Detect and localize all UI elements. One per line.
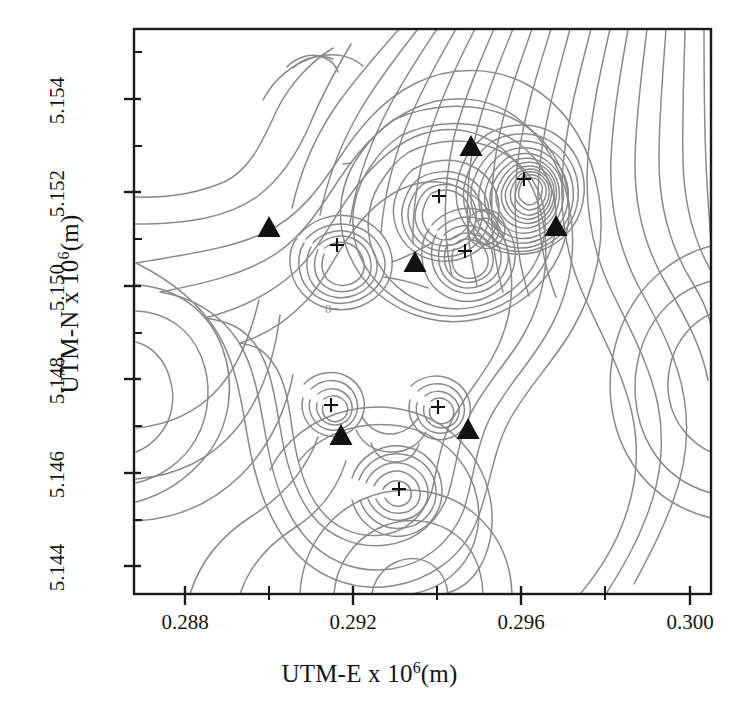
contour-value-label: 0 <box>325 301 332 317</box>
x-axis-title-prefix: UTM-E x 10 <box>281 660 412 687</box>
y-axis-title-suffix: (m) <box>56 215 83 252</box>
x-axis-title-suffix: (m) <box>421 660 458 687</box>
x-tick-label: 0.288 <box>130 610 240 635</box>
x-axis-title: UTM-E x 106(m) <box>0 660 739 688</box>
x-tick-label: 0.292 <box>298 610 408 635</box>
contour-figure: 0 0.288 0.292 0.296 0.300 5.154 5.152 5.… <box>0 0 739 721</box>
x-tick-label: 0.296 <box>466 610 576 635</box>
x-tick-label: 0.300 <box>635 610 739 635</box>
y-axis-title-exponent: 6 <box>55 251 72 259</box>
y-axis-title: UTM-N x 106(m) <box>56 94 84 514</box>
x-axis-title-exponent: 6 <box>413 659 421 676</box>
y-tick-label: 5.144 <box>45 508 70 628</box>
y-axis-title-prefix: UTM-N x 10 <box>56 259 83 393</box>
